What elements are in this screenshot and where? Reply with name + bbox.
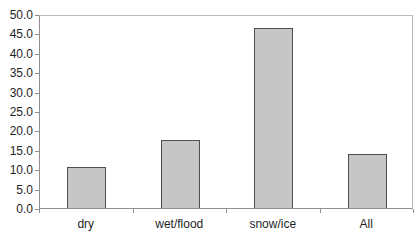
y-axis-tick-label-20-0: 20.0 [0, 124, 33, 138]
y-axis-tick [35, 112, 39, 113]
bar-wet-flood [161, 140, 200, 208]
x-axis-tick [226, 209, 227, 213]
x-axis-tick [39, 209, 40, 213]
y-axis-tick [35, 93, 39, 94]
x-axis-label-all: All [320, 217, 414, 231]
y-axis-tick [35, 73, 39, 74]
y-axis-tick-label-10-0: 10.0 [0, 163, 33, 177]
x-axis-label-snow-ice: snow/ice [226, 217, 320, 231]
bar-dry [67, 167, 106, 208]
y-axis-tick-label-50-0: 50.0 [0, 8, 33, 22]
y-axis-tick-label-0-0: 0.0 [0, 202, 33, 216]
x-axis-label-dry: dry [39, 217, 133, 231]
plot-area [39, 15, 413, 209]
y-axis-tick-label-5-0: 5.0 [0, 183, 33, 197]
y-axis-tick-label-15-0: 15.0 [0, 144, 33, 158]
bar-all [348, 154, 387, 208]
y-axis-tick [35, 34, 39, 35]
y-axis-tick-label-30-0: 30.0 [0, 86, 33, 100]
y-axis-tick-label-40-0: 40.0 [0, 47, 33, 61]
y-axis-tick-label-45-0: 45.0 [0, 27, 33, 41]
bar-chart-figure: 0.05.010.015.020.025.030.035.040.045.050… [0, 0, 419, 239]
y-axis-tick [35, 54, 39, 55]
x-axis-tick [133, 209, 134, 213]
y-axis-tick [35, 190, 39, 191]
x-axis-tick [320, 209, 321, 213]
x-axis-label-wet-flood: wet/flood [133, 217, 227, 231]
y-axis-tick [35, 170, 39, 171]
y-axis-tick [35, 15, 39, 16]
x-axis-tick [413, 209, 414, 213]
y-axis-tick-label-25-0: 25.0 [0, 105, 33, 119]
y-axis-tick [35, 151, 39, 152]
y-axis-tick [35, 131, 39, 132]
y-axis-tick-label-35-0: 35.0 [0, 66, 33, 80]
bar-snow-ice [254, 28, 293, 208]
